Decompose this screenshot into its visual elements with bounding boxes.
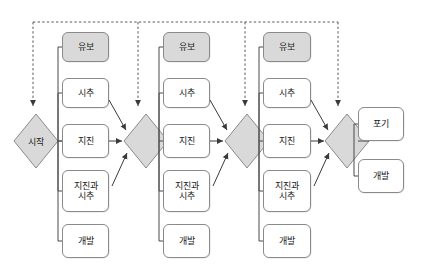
outcome-포기[interactable]: 포기 — [358, 107, 404, 141]
stage1-option-지진과시추[interactable]: 지진과 시추 — [62, 170, 109, 212]
opt4-to-decision1 — [112, 153, 127, 186]
opt4-to-decision2 — [213, 153, 228, 186]
stage1-option-유보[interactable]: 유보 — [62, 32, 109, 62]
outcome-개발[interactable]: 개발 — [358, 159, 404, 193]
stage2-option-시추[interactable]: 시추 — [163, 78, 210, 108]
start-decision-diamond — [14, 114, 58, 168]
opt2-to-decision1 — [109, 100, 126, 130]
stage1-option-시추[interactable]: 시추 — [62, 78, 109, 108]
stage2-option-개발[interactable]: 개발 — [163, 224, 210, 258]
opt2-to-decision2 — [210, 100, 227, 130]
opt4-to-decision3 — [314, 153, 329, 186]
stage3-option-유보[interactable]: 유보 — [263, 32, 311, 62]
diagram-canvas: 시작 유보 시추 지진 지진과 시추 개발 유보 시추 지진 지진과 시추 개발… — [0, 0, 423, 276]
stage1-option-개발[interactable]: 개발 — [62, 224, 109, 258]
stage2-option-지진[interactable]: 지진 — [163, 124, 210, 158]
stage2-option-지진과시추[interactable]: 지진과 시추 — [163, 170, 210, 212]
stage3-option-시추[interactable]: 시추 — [263, 78, 311, 108]
stage2-converge — [210, 100, 228, 186]
stage2-option-유보[interactable]: 유보 — [163, 32, 210, 62]
stage1-converge — [109, 100, 127, 186]
stage3-option-지진[interactable]: 지진 — [263, 124, 311, 158]
opt2-to-decision3 — [311, 100, 328, 130]
stage3-option-개발[interactable]: 개발 — [263, 224, 311, 258]
stage1-option-지진[interactable]: 지진 — [62, 124, 109, 158]
stage3-option-지진과시추[interactable]: 지진과 시추 — [263, 170, 311, 212]
